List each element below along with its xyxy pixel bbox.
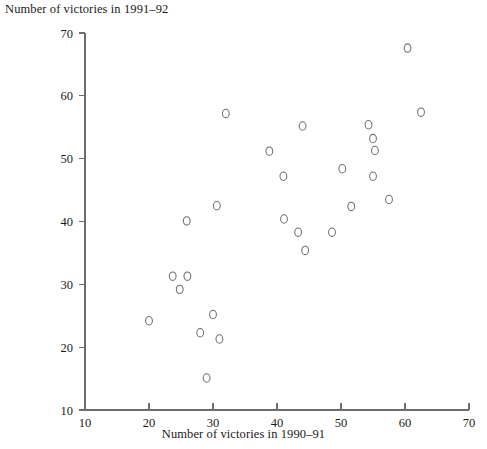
data-point-marker	[280, 172, 287, 180]
axes-group	[85, 33, 469, 410]
data-point-marker	[348, 202, 355, 210]
data-point-marker	[299, 122, 306, 130]
data-point-marker	[216, 335, 223, 343]
y-tick-label: 10	[61, 404, 74, 418]
y-tick-label: 50	[61, 152, 74, 166]
data-point-marker	[203, 374, 210, 382]
data-point-marker	[329, 228, 336, 236]
data-point-marker	[370, 134, 377, 142]
data-point-marker	[302, 246, 309, 254]
data-point-marker	[339, 165, 346, 173]
data-point-marker	[222, 109, 229, 117]
data-point-marker	[169, 272, 176, 280]
plot-area: 10203040506070 10203040506070	[0, 0, 487, 449]
data-point-marker	[266, 147, 273, 155]
data-points-group	[146, 44, 425, 382]
data-point-marker	[365, 121, 372, 129]
data-point-marker	[210, 310, 217, 318]
data-point-marker	[146, 317, 153, 325]
data-point-marker	[370, 172, 377, 180]
y-tick-label: 70	[61, 27, 74, 41]
data-point-marker	[176, 285, 183, 293]
data-point-marker	[197, 329, 204, 337]
tick-marks-group	[79, 33, 469, 410]
y-tick-label: 20	[61, 341, 74, 355]
data-point-marker	[404, 44, 411, 52]
x-axis-title: Number of victories in 1990–91	[0, 427, 487, 442]
y-tick-label: 60	[61, 89, 74, 103]
data-point-marker	[372, 146, 379, 154]
data-point-marker	[418, 108, 425, 116]
data-point-marker	[386, 195, 393, 203]
data-point-marker	[295, 228, 302, 236]
y-tick-label: 40	[61, 215, 74, 229]
data-point-marker	[213, 202, 220, 210]
y-tick-label: 30	[61, 278, 74, 292]
y-tick-labels-group: 10203040506070	[61, 27, 74, 418]
data-point-marker	[184, 272, 191, 280]
data-point-marker	[183, 217, 190, 225]
data-point-marker	[281, 215, 288, 223]
scatter-plot-figure: Number of victories in 1991–92 102030405…	[0, 0, 487, 449]
